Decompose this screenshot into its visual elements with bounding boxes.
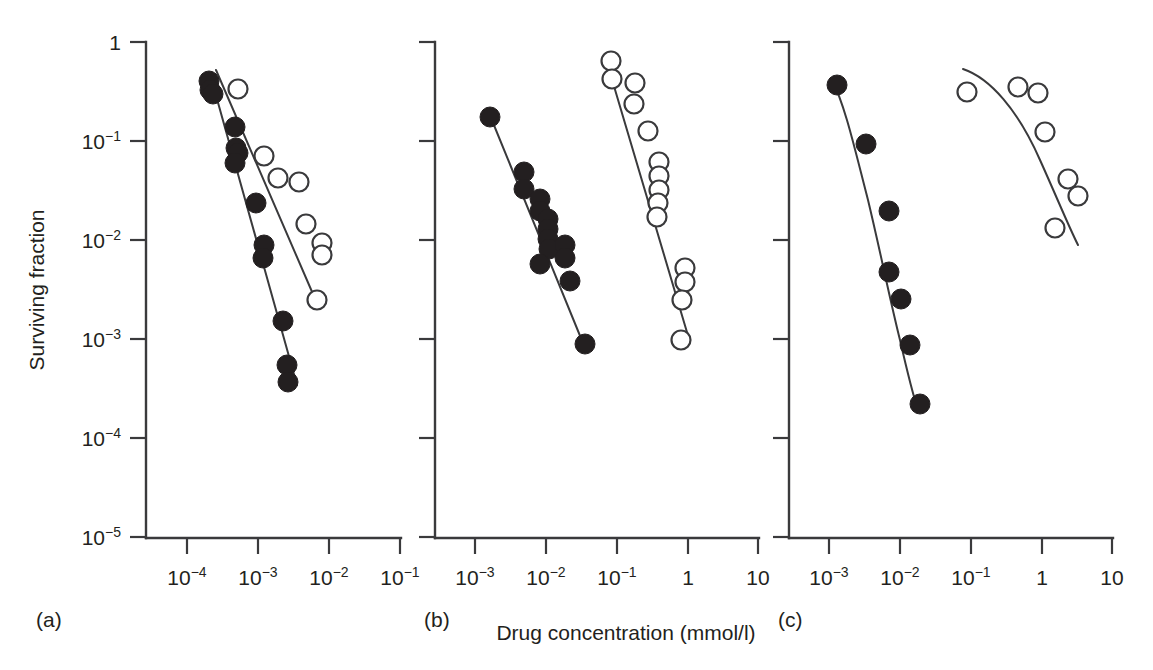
- data-point: [575, 334, 595, 354]
- panel-c-xtick-label-1e-1: 10−1: [951, 564, 991, 589]
- data-point: [891, 289, 911, 309]
- data-point: [555, 248, 575, 268]
- scientific-figure: 1 10−1 10−2 10−3 10−4 10−5 10−4 10−3 10−…: [0, 0, 1153, 670]
- panel-a-xtick-label-1e-3: 10−3: [238, 564, 278, 589]
- data-point: [229, 80, 248, 99]
- data-point: [278, 372, 298, 392]
- panel-b-xtick-label-1e-1: 10−1: [597, 564, 637, 589]
- panel-c: 10−3 10−2 10−1 1 10 (c): [773, 42, 1124, 631]
- panel-b-xtick-label-1e-2: 10−2: [526, 564, 566, 589]
- data-point: [308, 291, 327, 310]
- panel-a-ytick-label-1: 1: [109, 31, 121, 54]
- data-point: [879, 201, 899, 221]
- data-point: [297, 215, 316, 234]
- panel-a-ytick-label-1e-1: 10−1: [82, 128, 122, 153]
- panel-a-ytick-label-1e-3: 10−3: [82, 326, 122, 351]
- panel-label-c: (c): [778, 608, 803, 631]
- data-point: [1046, 219, 1065, 238]
- data-point: [273, 311, 293, 331]
- data-point: [603, 70, 622, 89]
- panel-label-a: (a): [36, 608, 62, 631]
- panel-b-closed-fit-line: [489, 113, 585, 348]
- data-point: [269, 169, 288, 188]
- panel-a-xtick-label-1e-2: 10−2: [309, 564, 349, 589]
- data-point: [856, 134, 876, 154]
- data-point: [673, 291, 692, 310]
- data-point: [602, 52, 621, 71]
- data-point: [672, 331, 691, 350]
- data-point: [676, 273, 695, 292]
- data-point: [560, 271, 580, 291]
- data-point: [246, 193, 266, 213]
- panel-c-open-circles: [958, 78, 1088, 238]
- x-axis-title: Drug concentration (mmol/l): [496, 621, 755, 644]
- data-point: [480, 107, 500, 127]
- data-point: [1036, 123, 1055, 142]
- data-point: [879, 262, 899, 282]
- panel-a-xtick-label-1e-4: 10−4: [167, 564, 207, 589]
- data-point: [255, 147, 274, 166]
- data-point: [900, 335, 920, 355]
- panel-c-xtick-label-1e-2: 10−2: [880, 564, 920, 589]
- panel-c-xtick-label-1e-3: 10−3: [809, 564, 849, 589]
- data-point: [625, 95, 644, 114]
- panel-a: 1 10−1 10−2 10−3 10−4 10−5 10−4 10−3 10−…: [36, 31, 420, 631]
- y-axis-title: Surviving fraction: [25, 209, 48, 370]
- data-point: [530, 254, 550, 274]
- panel-a-closed-circles: [199, 71, 298, 392]
- data-point: [1059, 170, 1078, 189]
- data-point: [648, 208, 667, 227]
- figure-panel-group: 1 10−1 10−2 10−3 10−4 10−5 10−4 10−3 10−…: [0, 0, 1153, 670]
- panel-b: 10−3 10−2 10−1 1 10 (b): [419, 42, 770, 631]
- panel-b-xtick-label-10: 10: [746, 566, 769, 589]
- data-point: [910, 394, 930, 414]
- panel-b-xtick-label-1e-3: 10−3: [455, 564, 495, 589]
- panel-label-b: (b): [424, 608, 450, 631]
- panel-a-closed-fit-line: [210, 74, 297, 385]
- panel-b-xtick-label-1: 1: [682, 566, 694, 589]
- panel-a-ytick-label-1e-4: 10−4: [82, 425, 122, 450]
- panel-b-open-circles: [602, 52, 695, 350]
- data-point: [626, 74, 645, 93]
- data-point: [290, 173, 309, 192]
- panel-a-xtick-label-1e-1: 10−1: [380, 564, 420, 589]
- data-point: [639, 122, 658, 141]
- data-point: [203, 84, 223, 104]
- panel-a-ytick-label-1e-5: 10−5: [82, 524, 122, 549]
- panel-a-ytick-label-1e-2: 10−2: [82, 227, 122, 252]
- panel-c-xtick-label-1: 1: [1036, 566, 1048, 589]
- data-point: [225, 153, 245, 173]
- panel-c-xtick-label-10: 10: [1100, 566, 1123, 589]
- data-point: [827, 75, 847, 95]
- data-point: [313, 246, 332, 265]
- data-point: [225, 117, 245, 137]
- data-point: [1009, 78, 1028, 97]
- data-point: [253, 248, 273, 268]
- panel-c-closed-fit-line: [832, 80, 918, 410]
- data-point: [1029, 84, 1048, 103]
- data-point: [958, 83, 977, 102]
- data-point: [1069, 187, 1088, 206]
